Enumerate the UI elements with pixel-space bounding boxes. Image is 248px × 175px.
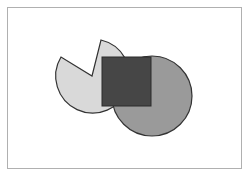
diagram-canvas <box>0 0 248 175</box>
diagram-svg <box>0 0 248 175</box>
square-shape <box>102 57 151 106</box>
